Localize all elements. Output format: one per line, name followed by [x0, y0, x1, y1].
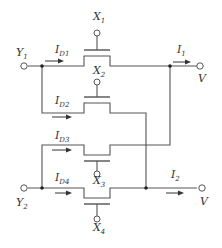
label-x2: X2	[92, 64, 106, 79]
arrow-i2	[166, 191, 184, 196]
label-y2: Y2	[16, 196, 28, 211]
label-x3: X3	[92, 174, 106, 189]
label-i2: I2	[170, 168, 180, 183]
junction-y1	[40, 64, 44, 68]
terminal-v-bottom	[199, 185, 205, 191]
label-y1: Y1	[16, 46, 28, 61]
arrow-i1	[173, 60, 191, 65]
gate-terminal-2	[94, 79, 100, 85]
terminal-v-top	[197, 63, 203, 69]
arrow-id4	[55, 191, 72, 196]
terminal-y2	[21, 185, 27, 191]
gate-terminal-x1	[94, 30, 100, 36]
label-id1: ID1	[54, 43, 69, 58]
junction-y2	[40, 186, 44, 190]
label-id2: ID2	[54, 94, 70, 109]
junction-out2	[144, 186, 148, 190]
transistor-second	[42, 66, 146, 188]
transistor-third	[42, 66, 170, 188]
circuit-diagram: X1 X2 X3 X4 Y1 Y2 ID1 ID2 ID3 ID4 I1 V I…	[0, 0, 222, 248]
arrow-id2	[52, 115, 72, 120]
arrow-id3	[52, 148, 72, 153]
junction-out1	[168, 64, 172, 68]
label-i1: I1	[176, 43, 186, 58]
label-id3: ID3	[54, 129, 70, 144]
label-x4: X4	[92, 221, 105, 236]
label-v-bottom: V	[200, 195, 209, 208]
label-id4: ID4	[54, 171, 69, 186]
arrow-id1	[45, 59, 64, 64]
label-v-top: V	[198, 72, 207, 85]
terminal-y1	[21, 63, 27, 69]
label-x1: X1	[92, 10, 105, 25]
